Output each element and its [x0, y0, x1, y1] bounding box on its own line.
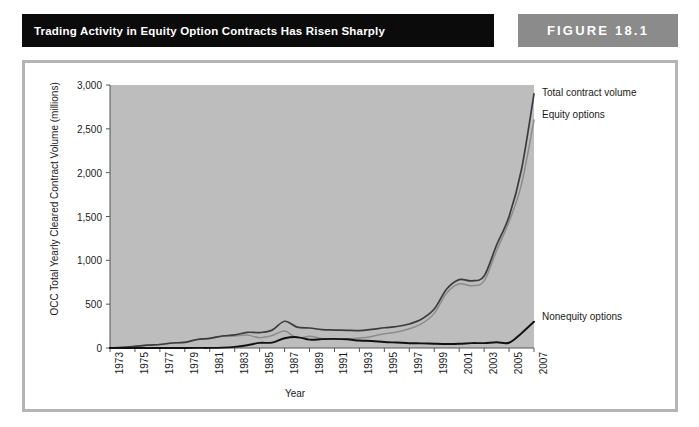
x-tick-label: 2001 — [463, 352, 474, 374]
x-tick-label: 2003 — [488, 352, 499, 374]
y-tick-label: 2,500 — [77, 123, 102, 134]
x-tick-label: 1979 — [189, 352, 200, 374]
y-tick-label: 1,000 — [77, 255, 102, 266]
figure-title-bar: Trading Activity in Equity Option Contra… — [22, 14, 494, 47]
figure-number-label: FIGURE 18.1 — [547, 23, 649, 38]
figure-page: Trading Activity in Equity Option Contra… — [0, 0, 699, 427]
x-tick-label: 1981 — [214, 352, 225, 374]
x-tick-label: 1989 — [314, 352, 325, 374]
x-tick-label: 1993 — [363, 352, 374, 374]
x-tick-label: 1987 — [289, 352, 300, 374]
x-tick-label: 1983 — [239, 352, 250, 374]
y-tick-label: 3,000 — [77, 80, 102, 91]
x-tick-label: 2005 — [513, 352, 524, 374]
series-label-nonequity-options: Nonequity options — [542, 311, 622, 322]
x-tick-label: 1997 — [413, 352, 424, 374]
series-label-total-contract-volume: Total contract volume — [542, 87, 637, 98]
y-tick-label: 2,000 — [77, 167, 102, 178]
figure-title: Trading Activity in Equity Option Contra… — [22, 25, 385, 37]
y-tick-label: 1,500 — [77, 211, 102, 222]
x-tick-label: 1975 — [139, 352, 150, 374]
figure-number-tab: FIGURE 18.1 — [518, 14, 678, 47]
x-tick-label: 1973 — [114, 352, 125, 374]
y-tick-label: 500 — [85, 299, 102, 310]
series-label-equity-options: Equity options — [542, 109, 605, 120]
x-tick-label: 1991 — [338, 352, 349, 374]
x-tick-label: 1995 — [388, 352, 399, 374]
x-tick-label: 1999 — [438, 352, 449, 374]
x-tick-label: 2007 — [538, 352, 549, 374]
x-tick-label: 1985 — [264, 352, 275, 374]
line-chart: OCC Total Yearly Cleared Contract Volume… — [25, 63, 681, 415]
figure-frame: OCC Total Yearly Cleared Contract Volume… — [22, 60, 678, 412]
x-tick-label: 1977 — [164, 352, 175, 374]
x-axis-title: Year — [205, 388, 385, 399]
x-axis-ticks: 1973197519771979198119831985198719891991… — [25, 352, 681, 412]
